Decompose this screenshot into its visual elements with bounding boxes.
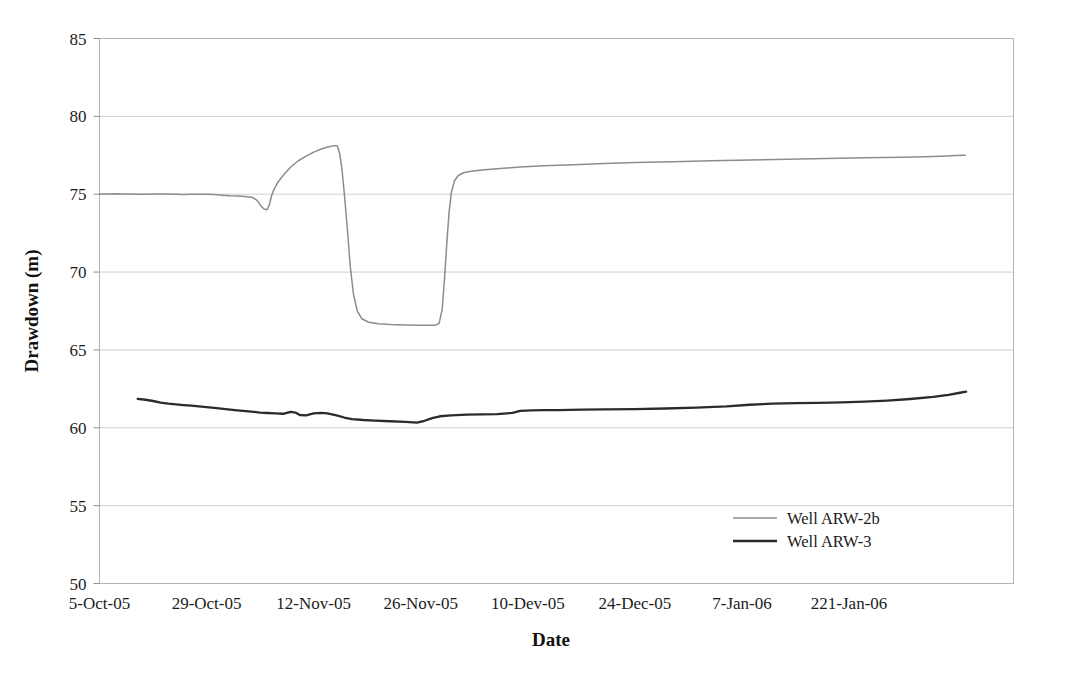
y-tick-label: 70 [70,263,87,282]
y-tick-label: 50 [70,575,87,594]
chart-container: 5055606570758085 5-Oct-0529-Oct-0512-Nov… [0,0,1076,683]
x-tick-label: 221-Jan-06 [811,594,887,613]
x-tick-label: 12-Nov-05 [276,594,351,613]
x-tick-label: 29-Oct-05 [172,594,242,613]
x-tick-label: 7-Jan-06 [712,594,771,613]
y-tick-label: 65 [70,341,87,360]
y-tick-label: 75 [70,185,87,204]
x-tick-label: 24-Dec-05 [599,594,672,613]
x-tick-label: 5-Oct-05 [69,594,130,613]
y-tick-label: 85 [70,30,87,49]
y-axis-title: Drawdown (m) [21,250,43,373]
x-axis-title: Date [532,629,570,650]
x-tick-label: 10-Dev-05 [491,594,565,613]
legend-label-1: Well ARW-2b [787,509,880,528]
legend-label-2: Well ARW-3 [787,532,871,551]
y-tick-label: 55 [70,497,87,516]
drawdown-line-chart: 5055606570758085 5-Oct-0529-Oct-0512-Nov… [0,0,1076,683]
chart-background [0,0,1076,683]
y-tick-label: 80 [70,107,87,126]
y-tick-label: 60 [70,419,87,438]
x-tick-label: 26-Nov-05 [383,594,458,613]
